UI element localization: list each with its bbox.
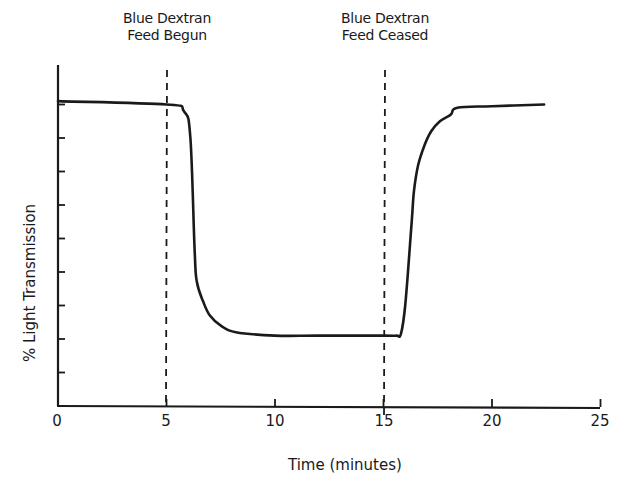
feed-ceased-line1: Blue Dextran	[330, 10, 440, 27]
feed-begun-line1: Blue Dextran	[112, 10, 222, 27]
feed-begun-marker-line	[166, 70, 167, 406]
x-tick-label: 5	[161, 412, 171, 430]
y-axis-label: % Light Transmission	[21, 204, 39, 362]
feed-ceased-annotation: Blue Dextran Feed Ceased	[330, 10, 440, 44]
x-tick-label: 0	[52, 412, 62, 430]
feed-ceased-marker-line	[384, 70, 385, 416]
x-tick-label: 20	[482, 412, 501, 430]
x-axis	[57, 406, 600, 408]
x-tick-label: 15	[374, 412, 393, 430]
feed-ceased-line2: Feed Ceased	[330, 27, 440, 44]
feed-begun-annotation: Blue Dextran Feed Begun	[112, 10, 222, 44]
transmission-curve	[58, 101, 544, 337]
feed-begun-line2: Feed Begun	[112, 27, 222, 44]
x-tick-label: 10	[265, 412, 284, 430]
x-tick-label: 25	[590, 412, 609, 430]
x-axis-label: Time (minutes)	[288, 456, 402, 474]
chart-canvas	[0, 0, 627, 485]
